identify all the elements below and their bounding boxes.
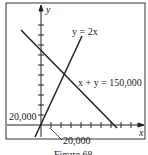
x-tick-label: 20,000 [63, 135, 91, 146]
y-axis-arrow-icon [39, 5, 43, 11]
label-y-equals-2x: y = 2x [72, 26, 98, 37]
x-axis-label: x [138, 127, 144, 138]
figure-caption: Figure 68 [54, 149, 93, 155]
figure-68-plot: y x y = 2x x + y = 150,000 20,000 20,000… [0, 0, 148, 155]
y-tick-label: 20,000 [9, 111, 37, 122]
y-axis-label: y [45, 4, 51, 15]
label-x-plus-y: x + y = 150,000 [78, 77, 142, 88]
x-tick-leader [50, 128, 62, 140]
